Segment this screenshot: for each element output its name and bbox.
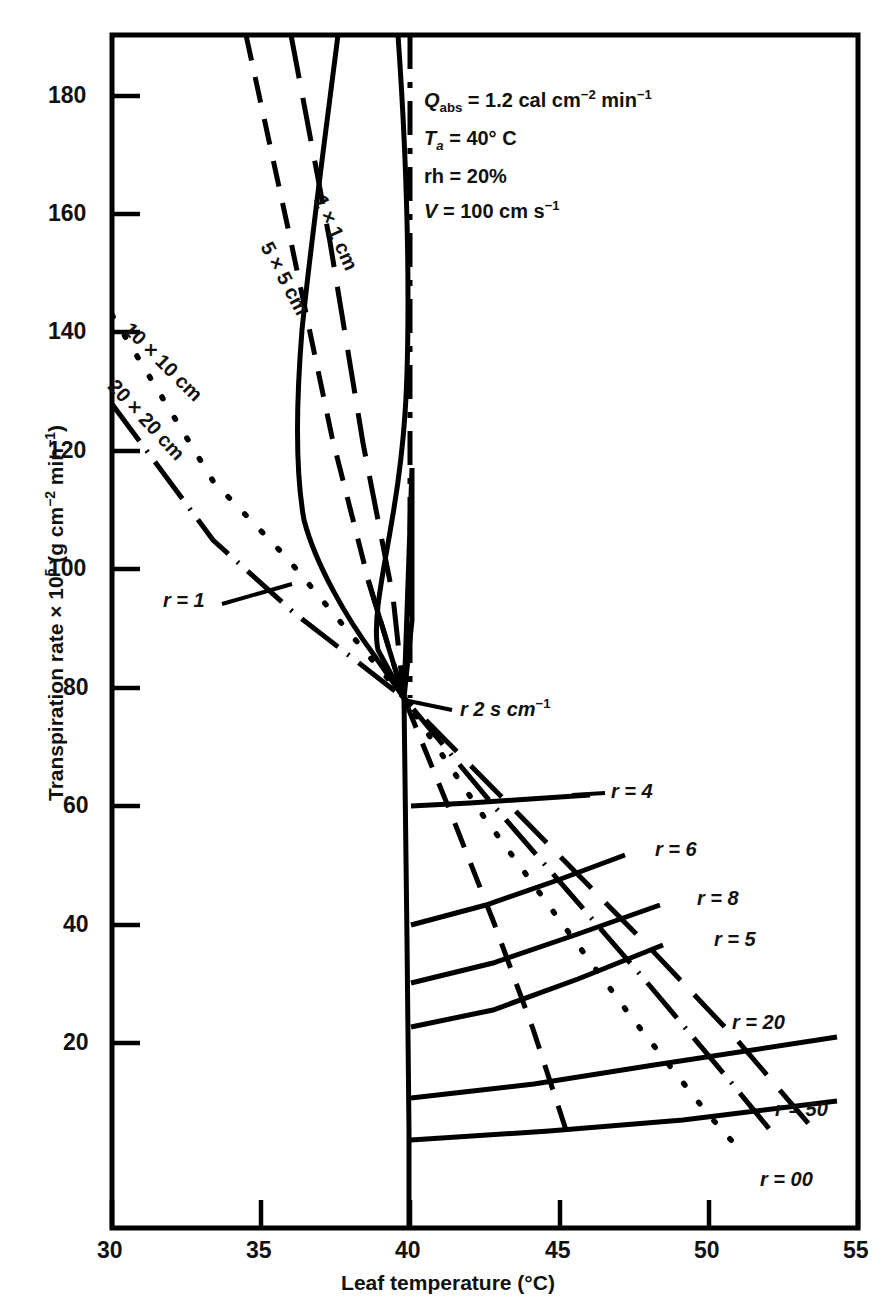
y-axis-title-exponent: 5 — [42, 569, 58, 577]
x-axis-title-text: Leaf temperature ( — [341, 1271, 524, 1294]
y-axis-title-units-mid: min — [44, 448, 67, 491]
annotation-r2-text: r 2 s cm — [460, 698, 536, 720]
parameter-line-ta: Ta = 40° C — [424, 123, 652, 161]
r-isopleth-label-r50: r = 50 — [775, 1098, 828, 1121]
parameter-symbol-v: V — [424, 199, 437, 221]
parameter-exp2-0: −1 — [637, 87, 652, 102]
y-axis-title-units-exp1: −2 — [42, 491, 58, 507]
y-axis-title-units-close: ) — [44, 425, 67, 432]
parameter-eq-2: = — [450, 165, 462, 187]
parameter-value-2: 20% — [467, 165, 507, 187]
parameter-line-rh: rh = 20% — [424, 161, 652, 191]
parameter-line-qabs: Qabs = 1.2 cal cm−2 min−1 — [424, 80, 652, 123]
x-axis-title-close: ) — [548, 1271, 555, 1294]
r-isopleth-label-r5: r = 5 — [714, 928, 756, 951]
y-tick-label-40: 40 — [63, 911, 89, 938]
y-axis-title-units: (g cm — [44, 507, 67, 569]
x-axis-title-unit: °C — [524, 1271, 548, 1294]
r-isopleth-label-r4: r = 4 — [611, 780, 653, 803]
leader-r4 — [572, 793, 605, 795]
parameter-block: Qabs = 1.2 cal cm−2 min−1 Ta = 40° C rh … — [424, 80, 652, 225]
parameter-value-3: 100 cm s — [460, 199, 545, 221]
parameter-symbol-q: Q — [424, 89, 440, 111]
x-tick-label-40: 40 — [395, 1237, 421, 1264]
r-isopleth-label-r00: r = 00 — [760, 1168, 813, 1191]
parameter-value-0: 1.2 cal cm — [485, 89, 581, 111]
parameter-exp1-0: −2 — [581, 87, 596, 102]
y-tick-label-180: 180 — [48, 82, 86, 109]
annotation-r2-s-cm: r 2 s cm−1 — [460, 696, 551, 721]
y-axis-title: Transpiration rate × 105 (g cm−2 min−1) — [42, 353, 68, 873]
parameter-line-v: V = 100 cm s−1 — [424, 191, 652, 226]
parameter-mid-0: min — [596, 89, 637, 111]
r-isopleth-label-r8: r = 8 — [697, 887, 739, 910]
parameter-eq-1: = — [449, 127, 461, 149]
x-tick-label-30: 30 — [97, 1237, 123, 1264]
y-tick-label-20: 20 — [63, 1029, 89, 1056]
parameter-value-1: 40° C — [466, 127, 516, 149]
y-tick-label-140: 140 — [48, 318, 86, 345]
x-tick-label-55: 55 — [843, 1237, 869, 1264]
x-tick-label-50: 50 — [694, 1237, 720, 1264]
y-axis-title-units-exp2: −1 — [42, 432, 58, 448]
annotation-r-equals-1: r = 1 — [163, 589, 205, 612]
parameter-subscript-abs: abs — [440, 100, 463, 115]
r-isopleth-label-r20: r = 20 — [732, 1011, 785, 1034]
r-isopleth-label-r6: r = 6 — [655, 838, 697, 861]
parameter-symbol-t: T — [424, 127, 436, 149]
parameter-subscript-a: a — [436, 138, 443, 153]
annotation-r2-exponent: −1 — [536, 696, 551, 711]
x-tick-label-45: 45 — [545, 1237, 571, 1264]
x-axis-title: Leaf temperature (°C) — [0, 1271, 896, 1295]
x-tick-label-35: 35 — [246, 1237, 272, 1264]
parameter-eq-0: = — [468, 89, 480, 111]
y-tick-label-160: 160 — [48, 200, 86, 227]
parameter-exp1-3: −1 — [545, 198, 560, 213]
y-axis-title-prefix: Transpiration rate × 10 — [44, 576, 67, 801]
parameter-symbol-rh: rh — [424, 165, 444, 187]
parameter-eq-3: = — [443, 199, 455, 221]
